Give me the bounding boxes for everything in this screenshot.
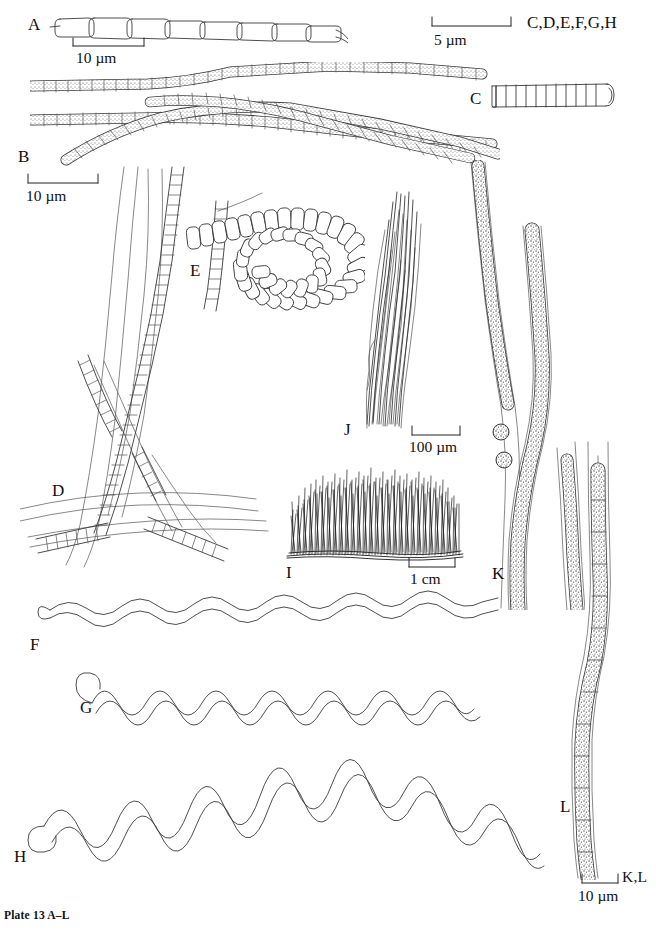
figure-label-f: F: [30, 636, 40, 653]
taxonomic-plate: A 10 µm 5 µm C,D,E,F,G,H: [0, 0, 656, 931]
scalebar-kl-value: 10 µm: [578, 888, 618, 904]
figure-label-j: J: [344, 421, 351, 438]
figure-label-c: C: [470, 90, 482, 107]
scalebar-i: [405, 556, 461, 569]
specimen-i-drawing: [285, 458, 465, 563]
scalebar-cdefgh: [428, 14, 518, 28]
figure-label-b: B: [18, 148, 30, 165]
figure-label-g: G: [80, 699, 93, 716]
figure-label-k: K: [492, 565, 505, 582]
specimen-f-drawing: [30, 590, 500, 660]
specimen-c-drawing: [488, 76, 628, 116]
scalebar-kl: [578, 872, 626, 885]
specimen-j-drawing: [355, 190, 435, 440]
specimen-h-drawing: [18, 730, 548, 880]
figure-label-e: E: [190, 262, 201, 279]
figure-label-i: I: [286, 564, 292, 581]
figure-label-l: L: [560, 798, 571, 815]
scalebar-a: [70, 36, 150, 48]
scalebar-i-label: 1 cm: [410, 571, 441, 587]
specimen-e-drawing: [185, 205, 365, 315]
scalebar-j-label: 100 µm: [409, 439, 457, 455]
specimen-l-drawing: [558, 440, 648, 880]
specimen-b-drawing: [30, 62, 500, 167]
plate-caption: Plate 13 A–L: [4, 909, 70, 921]
scalebar-cdefgh-value: 5 µm: [434, 32, 467, 48]
scalebar-kl-applies: K,L: [622, 869, 647, 885]
figure-label-d: D: [52, 482, 65, 499]
figure-label-h: H: [14, 848, 27, 865]
scalebar-cdefgh-applies: C,D,E,F,G,H: [527, 14, 617, 31]
figure-label-a: A: [28, 16, 41, 33]
